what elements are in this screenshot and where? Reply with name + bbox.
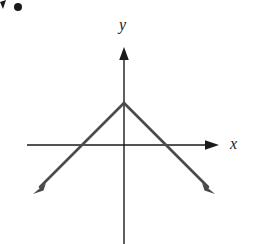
y-axis-arrowhead	[119, 47, 129, 60]
y-axis-label: y	[119, 17, 126, 33]
x-axis-arrowhead	[205, 140, 219, 150]
coordinate-plane	[0, 0, 254, 244]
x-axis	[27, 140, 219, 150]
corner-artifact-mark	[0, 0, 22, 11]
x-axis-label: x	[230, 136, 237, 152]
graph-figure: y x	[0, 0, 254, 244]
